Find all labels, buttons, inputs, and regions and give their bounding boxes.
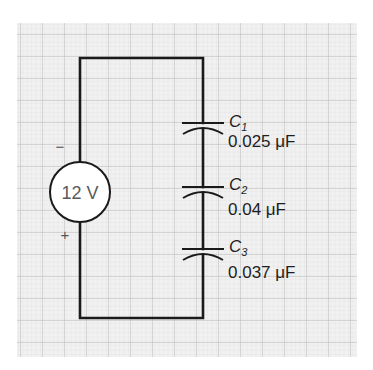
circuit-diagram: 12 V − + C1 0.025 μF C2 0.04 μF C3 0.037…: [0, 0, 373, 370]
capacitor-c1-value: 0.025 μF: [228, 132, 295, 151]
positive-terminal-symbol: +: [61, 226, 70, 243]
negative-terminal-symbol: −: [56, 138, 65, 155]
voltage-source-label: 12 V: [61, 183, 98, 203]
capacitor-c3-value: 0.037 μF: [228, 263, 295, 282]
capacitor-c2-value: 0.04 μF: [228, 200, 286, 219]
